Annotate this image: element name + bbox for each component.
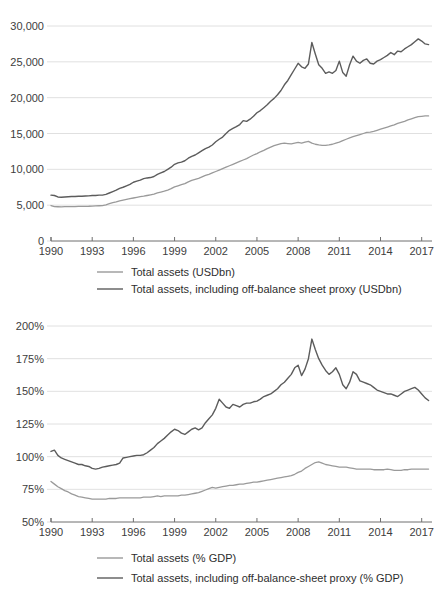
y-axis-label-2: 100% — [16, 451, 44, 463]
chart-svg-usdbn: 05,00010,00015,00020,00025,00030,0001990… — [0, 0, 441, 300]
y-axis-label-1: 5,000 — [16, 199, 44, 211]
chart-svg-pct-gdp: 50%75%100%125%150%175%200%19901993199619… — [0, 300, 441, 594]
y-axis-label-5: 25,000 — [10, 56, 44, 68]
series-line-0 — [51, 462, 429, 499]
y-axis-label-6: 200% — [16, 320, 44, 332]
y-axis-label-6: 30,000 — [10, 20, 44, 32]
x-axis-label-3: 1999 — [162, 526, 186, 538]
x-axis-label-8: 2014 — [368, 245, 392, 257]
legend-label-0: Total assets (% GDP) — [131, 552, 236, 564]
x-axis-label-6: 2008 — [286, 526, 310, 538]
x-axis-label-8: 2014 — [368, 526, 392, 538]
y-axis-label-4: 20,000 — [10, 92, 44, 104]
chart-total-assets-usdbn: 05,00010,00015,00020,00025,00030,0001990… — [0, 0, 441, 300]
y-axis-label-2: 10,000 — [10, 163, 44, 175]
chart-total-assets-pct-gdp: 50%75%100%125%150%175%200%19901993199619… — [0, 300, 441, 594]
x-axis-label-4: 2002 — [204, 526, 228, 538]
y-axis-label-3: 125% — [16, 418, 44, 430]
x-axis-label-7: 2011 — [327, 245, 351, 257]
x-axis-label-3: 1999 — [162, 245, 186, 257]
y-axis-label-3: 15,000 — [10, 128, 44, 140]
legend-label-1: Total assets, including off-balance shee… — [131, 283, 402, 295]
x-axis-label-2: 1996 — [121, 245, 145, 257]
x-axis-label-5: 2005 — [245, 245, 269, 257]
x-axis-label-6: 2008 — [286, 245, 310, 257]
x-axis-label-2: 1996 — [121, 526, 145, 538]
x-axis-label-1: 1993 — [80, 245, 104, 257]
x-axis-label-7: 2011 — [327, 526, 351, 538]
legend-label-1: Total assets, including off-balance-shee… — [131, 572, 403, 584]
legend-label-0: Total assets (USDbn) — [131, 266, 235, 278]
y-axis-label-4: 150% — [16, 385, 44, 397]
x-axis-label-5: 2005 — [245, 526, 269, 538]
x-axis-label-0: 1990 — [39, 245, 63, 257]
x-axis-label-0: 1990 — [39, 526, 63, 538]
y-axis-label-1: 75% — [22, 483, 44, 495]
x-axis-label-1: 1993 — [80, 526, 104, 538]
y-axis-label-5: 175% — [16, 353, 44, 365]
x-axis-label-4: 2002 — [204, 245, 228, 257]
x-axis-label-9: 2017 — [409, 526, 433, 538]
series-line-1 — [51, 39, 429, 197]
x-axis-label-9: 2017 — [409, 245, 433, 257]
